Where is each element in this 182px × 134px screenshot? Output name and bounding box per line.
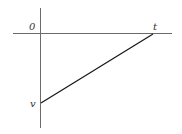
velocity-time-diagram: 0 t v xyxy=(0,0,182,134)
origin-label: 0 xyxy=(29,21,36,32)
graph-line xyxy=(41,34,153,103)
t-axis-label: t xyxy=(153,21,158,32)
v-point-label: v xyxy=(30,98,36,109)
